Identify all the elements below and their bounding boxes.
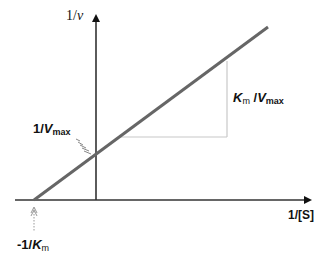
- x-intercept-pointer: [31, 207, 37, 232]
- y-intercept-pointer: [76, 139, 91, 154]
- x-axis-label: 1/[S]: [288, 208, 314, 222]
- x-intercept-label: -1/Km: [17, 237, 49, 253]
- slope-label: Km /Vmax: [233, 90, 284, 106]
- y-axis-label: 1/v: [66, 8, 83, 24]
- y-intercept-label: 1/Vmax: [33, 121, 71, 137]
- plot-line: [34, 27, 268, 200]
